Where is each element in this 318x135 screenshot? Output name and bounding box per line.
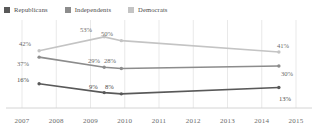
legend-label-republicans: Republicans	[14, 6, 48, 13]
chart-legend: RepublicansIndependentsDemocrats	[4, 6, 185, 13]
legend-item-republicans: Republicans	[4, 6, 48, 13]
x-axis-label-2014: 2014	[254, 117, 269, 125]
legend-item-democrats: Democrats	[128, 6, 167, 13]
x-axis-label-2009: 2009	[83, 117, 98, 125]
x-axis-label-2010: 2010	[117, 117, 132, 125]
value-label-42pct-0: 42%	[19, 40, 31, 47]
value-label-28pct-6: 28%	[104, 57, 116, 64]
x-axis-label-2013: 2013	[220, 117, 235, 125]
value-label-9pct-9: 9%	[89, 83, 98, 90]
data-point-democrats-2	[120, 39, 123, 42]
data-point-republicans-3	[277, 86, 280, 89]
value-label-53pct-1: 53%	[80, 26, 92, 33]
legend-swatch-icon-democrats	[128, 7, 134, 13]
legend-swatch-icon-republicans	[4, 7, 10, 13]
value-label-50pct-2: 50%	[101, 30, 113, 37]
chart-screenshot: .... RepublicansIndependentsDemocrats 20…	[0, 0, 318, 135]
value-label-29pct-5: 29%	[88, 57, 100, 64]
data-point-republicans-1	[103, 91, 106, 94]
x-axis-tick-labels: 200720082009201020112012201320142015	[0, 117, 318, 131]
value-label-13pct-11: 13%	[279, 95, 291, 102]
plot-area	[0, 20, 318, 115]
x-axis-label-2008: 2008	[49, 117, 64, 125]
data-point-independents-2	[120, 67, 123, 70]
value-label-8pct-10: 8%	[105, 83, 114, 90]
data-point-democrats-0	[37, 49, 40, 52]
value-label-37pct-4: 37%	[17, 60, 29, 67]
data-point-republicans-2	[120, 92, 123, 95]
data-point-independents-3	[277, 64, 280, 67]
value-label-16pct-8: 16%	[17, 76, 29, 83]
legend-label-independents: Independents	[75, 6, 111, 13]
value-label-30pct-7: 30%	[281, 70, 293, 77]
legend-swatch-icon-independents	[65, 7, 71, 13]
data-point-independents-0	[37, 55, 40, 58]
legend-label-democrats: Democrats	[138, 6, 167, 13]
x-axis-label-2011: 2011	[152, 117, 167, 125]
clipped-top-text: ....	[6, 0, 14, 1]
line-chart-svg	[0, 20, 318, 115]
data-point-independents-1	[103, 66, 106, 69]
x-axis-label-2012: 2012	[186, 117, 201, 125]
x-axis-label-2007: 2007	[15, 117, 30, 125]
x-axis-label-2015: 2015	[289, 117, 304, 125]
legend-item-independents: Independents	[65, 6, 111, 13]
data-point-republicans-0	[37, 82, 40, 85]
data-point-democrats-3	[277, 50, 280, 53]
value-label-41pct-3: 41%	[277, 42, 289, 49]
